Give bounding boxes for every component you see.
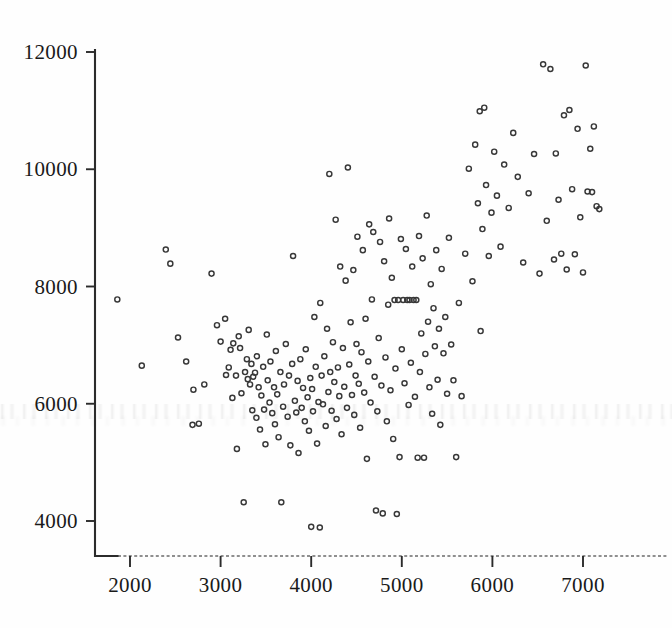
data-point — [272, 385, 277, 390]
data-point — [257, 427, 262, 432]
data-point — [310, 387, 315, 392]
data-point — [246, 327, 251, 332]
data-point — [412, 394, 417, 399]
data-point — [348, 320, 353, 325]
data-point — [190, 422, 195, 427]
data-point — [333, 217, 338, 222]
data-point — [451, 378, 456, 383]
data-point — [388, 388, 393, 393]
data-point — [362, 390, 367, 395]
data-point — [276, 435, 281, 440]
data-point — [302, 419, 307, 424]
data-point — [420, 256, 425, 261]
data-point — [506, 205, 511, 210]
data-point — [353, 373, 358, 378]
data-point — [340, 346, 345, 351]
data-point — [369, 297, 374, 302]
data-point — [391, 436, 396, 441]
data-point — [397, 455, 402, 460]
scatter-plot-figure: 4000600080001000012000 20003000400050006… — [0, 0, 672, 628]
data-point — [439, 266, 444, 271]
data-point — [275, 392, 280, 397]
data-point — [342, 384, 347, 389]
data-point — [366, 359, 371, 364]
data-point — [548, 66, 553, 71]
data-point — [163, 247, 168, 252]
data-point — [480, 227, 485, 232]
data-point — [262, 407, 267, 412]
data-point — [355, 234, 360, 239]
data-point — [233, 373, 238, 378]
data-point — [572, 252, 577, 257]
data-point — [115, 297, 120, 302]
data-point — [296, 450, 301, 455]
data-point — [265, 378, 270, 383]
data-point — [436, 326, 441, 331]
data-point — [267, 400, 272, 405]
data-point — [544, 218, 549, 223]
data-point — [356, 381, 361, 386]
data-point — [591, 124, 596, 129]
data-point — [371, 229, 376, 234]
data-point — [238, 346, 243, 351]
data-point — [410, 264, 415, 269]
data-point — [292, 398, 297, 403]
data-point — [263, 442, 268, 447]
data-point — [250, 408, 255, 413]
data-point — [244, 357, 249, 362]
data-point — [406, 402, 411, 407]
data-point — [368, 400, 373, 405]
x-tick-label-7000: 7000 — [561, 573, 605, 597]
data-point — [295, 378, 300, 383]
data-point — [445, 391, 450, 396]
tick-marks-group — [86, 52, 583, 567]
data-point — [241, 500, 246, 505]
data-point — [332, 380, 337, 385]
data-point — [349, 392, 354, 397]
y-tick-label-4000: 4000 — [34, 509, 78, 533]
data-point — [492, 149, 497, 154]
data-point — [345, 165, 350, 170]
x-tick-label-6000: 6000 — [471, 573, 515, 597]
data-point — [327, 171, 332, 176]
data-point — [223, 316, 228, 321]
x-tick-label-5000: 5000 — [380, 573, 424, 597]
data-point — [264, 332, 269, 337]
data-point — [338, 264, 343, 269]
data-point — [223, 372, 228, 377]
data-point — [256, 385, 261, 390]
data-point — [254, 415, 259, 420]
data-point — [380, 511, 385, 516]
data-point — [482, 105, 487, 110]
data-point — [309, 524, 314, 529]
data-point — [335, 365, 340, 370]
data-point — [367, 222, 372, 227]
data-point — [446, 235, 451, 240]
data-point — [494, 193, 499, 198]
data-point — [383, 355, 388, 360]
data-point — [375, 409, 380, 414]
data-point — [382, 259, 387, 264]
data-point — [354, 341, 359, 346]
data-point — [475, 201, 480, 206]
data-point — [389, 275, 394, 280]
data-point — [456, 300, 461, 305]
data-point — [561, 113, 566, 118]
data-point — [320, 402, 325, 407]
data-point — [196, 421, 201, 426]
data-point — [454, 455, 459, 460]
data-point — [272, 422, 277, 427]
data-point — [281, 404, 286, 409]
data-point — [243, 370, 248, 375]
data-point — [432, 344, 437, 349]
data-point — [470, 279, 475, 284]
data-point — [430, 411, 435, 416]
data-point — [347, 362, 352, 367]
y-tick-label-10000: 10000 — [24, 157, 79, 181]
data-point — [441, 351, 446, 356]
data-point — [399, 347, 404, 352]
data-point — [288, 443, 293, 448]
data-point — [352, 412, 357, 417]
data-point — [486, 253, 491, 258]
data-point — [427, 385, 432, 390]
